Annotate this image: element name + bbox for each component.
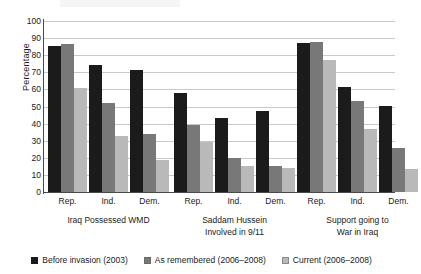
bar	[323, 60, 336, 192]
legend-item[interactable]: Before invasion (2003)	[31, 255, 128, 265]
x-axis-group-label-line: Saddam Hussein	[175, 214, 295, 226]
y-axis-tick-labels: 0102030405060708090100	[0, 0, 41, 214]
x-axis-category-label: Rep.	[172, 196, 216, 206]
bar	[200, 142, 213, 192]
x-axis-category-label: Rep.	[46, 196, 90, 206]
x-axis-category-label: Ind.	[336, 196, 380, 206]
bar	[215, 118, 228, 192]
bar	[364, 129, 377, 192]
bar	[130, 70, 143, 192]
bar	[351, 101, 364, 192]
bar	[174, 93, 187, 192]
bar	[187, 125, 200, 192]
legend-item[interactable]: As remembered (2006–2008)	[144, 255, 266, 265]
bar-group	[297, 21, 420, 192]
bar-group	[174, 21, 297, 192]
x-axis-category-label: Ind.	[213, 196, 257, 206]
x-axis-category-label: Dem.	[128, 196, 172, 206]
bar	[102, 103, 115, 192]
bar	[156, 160, 169, 192]
y-axis-tick-label: 80	[3, 51, 41, 60]
bar	[310, 42, 323, 192]
bar	[405, 169, 418, 192]
y-axis-tick-label: 50	[3, 103, 41, 112]
x-axis-group-label: Support going toWar in Iraq	[298, 214, 418, 238]
legend-item[interactable]: Current (2006–2008)	[282, 255, 372, 265]
y-axis-tick-label: 90	[3, 34, 41, 43]
y-axis-tick-label: 100	[3, 17, 41, 26]
y-axis-tick-label: 30	[3, 137, 41, 146]
bar	[269, 166, 282, 193]
bar	[241, 166, 254, 192]
x-axis-category-label: Dem.	[254, 196, 298, 206]
bar	[379, 106, 392, 192]
y-axis-tick-label: 0	[3, 188, 41, 197]
x-axis-group-label: Saddam HusseinInvolved in 9/11	[175, 214, 295, 238]
y-axis-tick-label: 20	[3, 154, 41, 163]
bar	[338, 87, 351, 192]
x-axis-category-label: Rep.	[295, 196, 339, 206]
x-axis-group-label-line: Support going to	[298, 214, 418, 226]
legend-label: Before invasion (2003)	[42, 255, 128, 265]
legend-swatch-icon	[144, 257, 151, 264]
bar	[282, 168, 295, 192]
legend-swatch-icon	[31, 257, 38, 264]
legend-swatch-icon	[282, 257, 289, 264]
bar	[48, 46, 61, 192]
bar	[115, 136, 128, 192]
x-axis-group-label-line: War in Iraq	[298, 226, 418, 238]
bar-group	[48, 21, 171, 192]
plot-area	[44, 21, 395, 192]
x-axis-category-label: Dem.	[377, 196, 421, 206]
bar	[74, 88, 87, 192]
chart-legend: Before invasion (2003)As remembered (200…	[0, 251, 403, 269]
legend-label: As remembered (2006–2008)	[155, 255, 266, 265]
bar	[61, 44, 74, 192]
x-axis-group-label: Iraq Possessed WMD	[49, 214, 169, 226]
y-axis-tick-label: 70	[3, 68, 41, 77]
bar	[297, 43, 310, 192]
bar	[256, 111, 269, 192]
bar	[89, 65, 102, 192]
y-axis-tick-label: 60	[3, 85, 41, 94]
legend-label: Current (2006–2008)	[293, 255, 372, 265]
x-axis-line	[43, 192, 395, 193]
y-axis-tick-label: 10	[3, 171, 41, 180]
x-axis-category-label: Ind.	[87, 196, 131, 206]
bar	[392, 148, 405, 192]
bar	[143, 134, 156, 192]
scan-artifact	[60, 0, 180, 7]
x-axis-group-label-line: Involved in 9/11	[175, 226, 295, 238]
y-axis-tick-label: 40	[3, 120, 41, 129]
x-axis-group-label-line: Iraq Possessed WMD	[49, 214, 169, 226]
bar	[228, 158, 241, 192]
